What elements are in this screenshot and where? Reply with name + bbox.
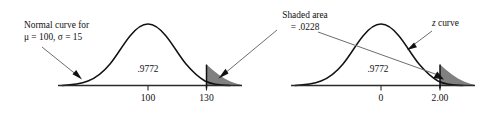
shaded-area-callout-line1: Shaded area	[282, 10, 328, 20]
normal-curve-callout: Normal curve for μ = 100, σ = 15	[24, 20, 90, 80]
normal-curve-callout-leader-line	[42, 47, 78, 76]
right-chart-group: 0 2.00 .9772	[291, 24, 475, 103]
normal-curve-callout-line1: Normal curve for	[24, 20, 90, 30]
left-tick-label-100: 100	[141, 92, 156, 103]
right-unshaded-area-label: .9772	[367, 64, 388, 74]
shaded-area-leader-left	[224, 30, 277, 74]
z-curve-callout: z curve	[407, 18, 459, 50]
right-shaded-tail-region	[440, 65, 475, 86]
figure-canvas: 100 130 .9772 Normal curve for μ = 100, …	[0, 0, 487, 120]
shaded-area-callout-line2: = .0228	[291, 22, 320, 32]
z-curve-callout-rest: curve	[436, 18, 459, 28]
right-tick-label-0: 0	[379, 92, 384, 103]
left-tick-label-130: 130	[199, 92, 214, 103]
right-tick-label-200: 2.00	[432, 92, 449, 103]
shaded-area-callout: Shaded area = .0228	[219, 10, 445, 80]
left-normal-curve-path	[62, 24, 230, 86]
left-unshaded-area-label: .9772	[137, 64, 158, 74]
z-curve-callout-leader-line	[412, 31, 432, 46]
left-chart-group: 100 130 .9772	[58, 24, 242, 103]
z-curve-callout-label: z curve	[431, 18, 459, 28]
normal-curve-figure: 100 130 .9772 Normal curve for μ = 100, …	[0, 0, 487, 120]
shaded-area-left-arrowhead	[219, 69, 229, 79]
normal-curve-callout-arrowhead	[73, 70, 83, 80]
normal-curve-callout-line2: μ = 100, σ = 15	[24, 32, 82, 42]
